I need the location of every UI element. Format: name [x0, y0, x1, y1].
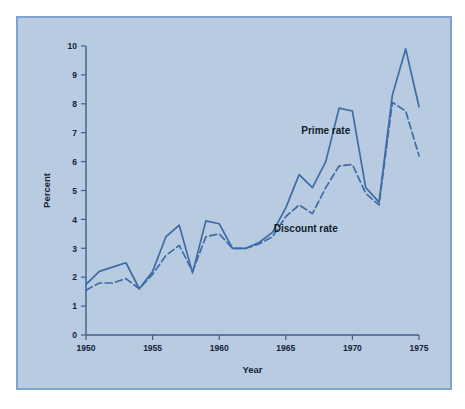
chart-panel: 012345678910 195019551960196519701975 Pr… [16, 16, 452, 390]
y-tick-label: 6 [72, 157, 77, 167]
y-tick-label: 5 [72, 186, 77, 196]
y-tick-label: 3 [72, 244, 77, 254]
x-tick-label: 1960 [210, 343, 229, 353]
y-tick-label: 10 [68, 41, 78, 51]
x-tick-label: 1950 [77, 343, 96, 353]
x-tick-label: 1975 [410, 343, 429, 353]
y-tick-label: 2 [72, 272, 77, 282]
y-tick-label: 9 [72, 70, 77, 80]
x-tick-label: 1965 [276, 343, 295, 353]
figure-root: 012345678910 195019551960196519701975 Pr… [0, 0, 465, 409]
series-label-prime-rate: Prime rate [301, 125, 350, 136]
line-chart: 012345678910 195019551960196519701975 Pr… [18, 18, 450, 388]
y-tick-label: 7 [72, 128, 77, 138]
x-axis-title: Year [242, 364, 262, 375]
y-tick-label: 1 [72, 301, 77, 311]
y-axis-title: Percent [41, 172, 52, 208]
x-tick-label: 1970 [343, 343, 362, 353]
series-label-discount-rate: Discount rate [274, 223, 338, 234]
paper-grain [18, 18, 450, 388]
x-tick-label: 1955 [143, 343, 162, 353]
y-tick-label: 0 [72, 330, 77, 340]
y-tick-label: 4 [72, 215, 77, 225]
y-tick-label: 8 [72, 99, 77, 109]
